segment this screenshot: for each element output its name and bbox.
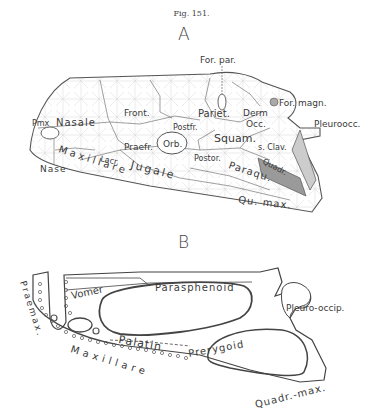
label-for-par: For. par. xyxy=(200,55,236,65)
label-front: Front. xyxy=(124,108,150,118)
label-parasphenoid: Parasphenoid xyxy=(155,282,235,293)
label-pmx: Pmx xyxy=(32,119,50,128)
label-nasale: Nasale xyxy=(56,117,96,128)
label-postor: Postor. xyxy=(194,154,221,163)
label-for-magn: For. magn. xyxy=(279,98,327,108)
label-occ: Occ. xyxy=(246,119,266,129)
label-pleuroocc: Pleuroocc. xyxy=(314,119,360,129)
label-s-clav: s. Clav. xyxy=(258,143,287,152)
label-orb: Orb. xyxy=(163,139,182,149)
label-pleuro: Pleuro- xyxy=(286,303,318,313)
label-vomer: Vomer xyxy=(70,283,105,301)
skull-lateral-view-a: For. par. Pmx Nasale Front. Pariet. Derm… xyxy=(0,0,383,419)
label-nase: Nase xyxy=(40,164,66,174)
label-praemax: Praemax. xyxy=(18,280,46,339)
label-postfr: Postfr. xyxy=(173,123,198,132)
label-occip: occip. xyxy=(318,303,344,313)
label-praefr: Praefr. xyxy=(124,142,153,152)
label-quadr-max: Quadr.-max. xyxy=(254,382,327,410)
label-palatin: Palatin xyxy=(117,333,163,353)
nostril xyxy=(41,127,59,139)
label-pariet: Pariet. xyxy=(198,108,230,119)
label-derm: Derm xyxy=(243,108,268,118)
label-squam: Squam. xyxy=(214,132,256,145)
